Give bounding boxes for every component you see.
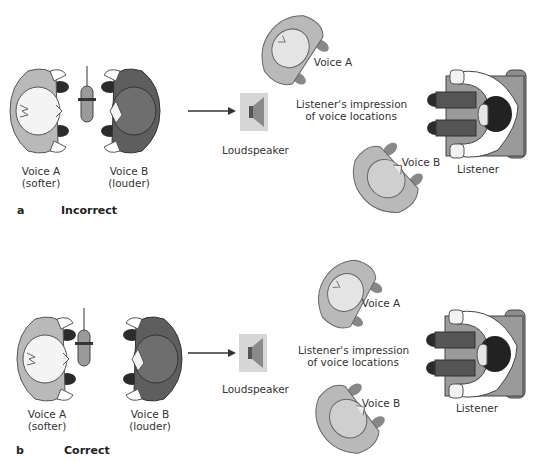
voice-b-figure (100, 65, 162, 157)
perceived-voice-a-label: Voice A (310, 56, 356, 68)
impression-line-1: Listener's impression (296, 98, 406, 110)
loudspeaker-icon (239, 334, 267, 372)
listener-figure (427, 306, 527, 402)
perceived-voice-a-figure (262, 12, 324, 88)
recording-voice-b-label: Voice B (louder) (104, 165, 154, 189)
perceived-voice-a-label: Voice A (358, 297, 404, 309)
perceived-voice-a-figure (318, 256, 378, 332)
loudspeaker-label: Loudspeaker (222, 383, 288, 395)
voice-a-note: (softer) (22, 420, 72, 432)
microphone-icon (78, 66, 96, 126)
recording-voice-a-label: Voice A (softer) (16, 165, 66, 189)
voice-b-note: (louder) (125, 420, 175, 432)
recording-voice-a-label: Voice A (softer) (22, 408, 72, 432)
loudspeaker-icon (240, 93, 268, 131)
voice-b-note: (louder) (104, 177, 154, 189)
voice-b-figure (122, 313, 184, 405)
microphone-icon (75, 308, 93, 368)
panel-letter: a (17, 204, 24, 217)
arrow-icon (188, 106, 236, 116)
listener-figure (428, 66, 528, 162)
perceived-voice-b-figure (352, 138, 422, 218)
impression-line-1: Listener's impression (298, 344, 408, 356)
arrow-icon (188, 348, 236, 358)
listener-label: Listener (448, 163, 508, 175)
panel-title: Incorrect (61, 204, 117, 217)
voice-a-name: Voice A (16, 165, 66, 177)
perceived-voice-b-label: Voice B (358, 397, 404, 409)
voice-a-figure (8, 65, 70, 157)
voice-b-name: Voice B (104, 165, 154, 177)
impression-line-2: of voice locations (298, 356, 408, 368)
recording-voice-b-label: Voice B (louder) (125, 408, 175, 432)
impression-label: Listener's impression of voice locations (298, 344, 408, 368)
impression-label: Listener's impression of voice locations (296, 98, 406, 122)
impression-line-2: of voice locations (296, 110, 406, 122)
listener-label: Listener (447, 402, 507, 414)
panel-title: Correct (64, 444, 110, 457)
voice-b-name: Voice B (125, 408, 175, 420)
voice-a-name: Voice A (22, 408, 72, 420)
perceived-voice-b-figure (314, 378, 384, 458)
voice-a-note: (softer) (16, 177, 66, 189)
voice-a-figure (15, 313, 77, 405)
loudspeaker-label: Loudspeaker (222, 144, 288, 156)
panel-letter: b (16, 444, 24, 457)
